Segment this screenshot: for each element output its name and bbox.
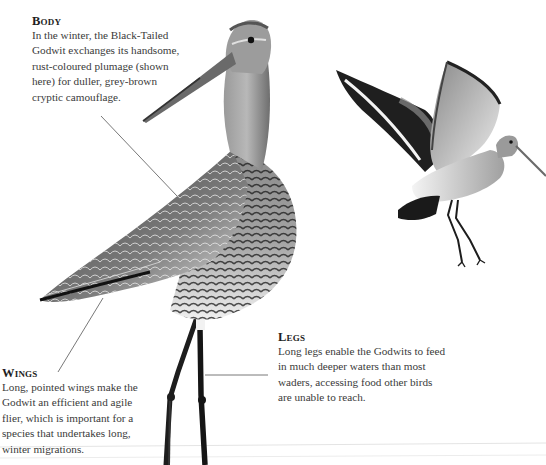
field-guide-page: Body In the winter, the Black-Tailed God… [0,0,546,465]
wings-caption-text: Long, pointed wings make the Godwit an e… [2,380,147,457]
legs-caption-text: Long legs enable the Godwits to feed in … [278,344,448,406]
wings-caption: Wings Long, pointed wings make the Godwi… [2,366,147,457]
wings-leader-line [58,298,103,372]
wings-caption-heading: Wings [2,366,147,380]
body-caption: Body In the winter, the Black-Tailed God… [32,14,182,105]
flying-godwit-beak [516,146,546,176]
standing-godwit-legs [166,316,206,465]
flying-godwit-tail [398,196,440,220]
body-caption-heading: Body [32,14,182,28]
body-caption-text: In the winter, the Black-Tailed Godwit e… [32,28,182,105]
flying-godwit-eye [509,140,513,144]
body-leader-line [101,116,177,196]
flying-godwit-head [496,136,518,158]
flying-godwit-legs [448,200,480,262]
standing-godwit-eye [248,37,254,43]
flying-godwit-illustration [336,62,546,267]
legs-caption: Legs Long legs enable the Godwits to fee… [278,330,448,406]
legs-caption-heading: Legs [278,330,448,344]
